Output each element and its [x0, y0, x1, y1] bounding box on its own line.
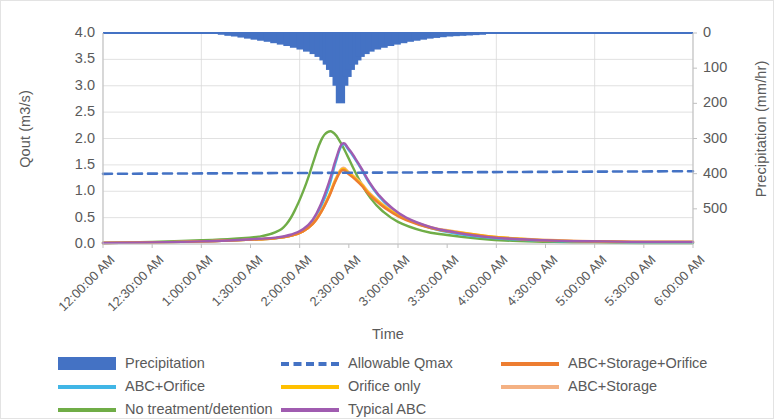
legend-item[interactable]: Allowable Qmax: [281, 353, 453, 374]
y-axis-left-tick-label: 0.0: [55, 235, 95, 251]
precipitation-bar: [477, 33, 486, 35]
legend-item[interactable]: ABC+Storage: [501, 376, 657, 397]
legend-item[interactable]: ABC+Orifice: [58, 376, 205, 397]
y-axis-left-tick-label: 2.0: [55, 130, 95, 146]
y-axis-right-tick-label: 300: [703, 130, 749, 146]
legend-item[interactable]: No treatment/detention: [58, 399, 273, 419]
y-axis-right-tick-label: 0: [703, 24, 749, 40]
legend-label: Precipitation: [125, 356, 205, 371]
legend-swatch-line: [58, 408, 116, 412]
y-axis-left-tick-label: 2.5: [55, 103, 95, 119]
y-axis-left-tick-label: 0.5: [55, 209, 95, 225]
x-axis-title: Time: [1, 326, 774, 342]
legend-swatch-line: [281, 362, 339, 366]
legend-label: Orifice only: [348, 379, 421, 394]
legend-swatch-line: [281, 408, 339, 412]
y-axis-left-title: Qout (m3/s): [17, 9, 33, 249]
legend-swatch-bar: [58, 357, 116, 370]
chart-container: Qout (m3/s) Precipitation (mm/hr) Time 4…: [0, 0, 774, 419]
legend-label: Typical ABC: [348, 402, 426, 417]
y-axis-left-tick-label: 1.0: [55, 182, 95, 198]
legend-item[interactable]: ABC+Storage+Orifice: [501, 353, 707, 374]
chart-legend: PrecipitationAllowable QmaxABC+Storage+O…: [1, 353, 774, 419]
y-axis-right-tick-label: 200: [703, 94, 749, 110]
legend-item[interactable]: Typical ABC: [281, 399, 426, 419]
legend-label: ABC+Storage: [568, 379, 657, 394]
y-axis-left-tick-label: 4.0: [55, 24, 95, 40]
legend-label: No treatment/detention: [125, 402, 273, 417]
y-axis-left-tick-label: 3.0: [55, 77, 95, 93]
legend-swatch-line: [501, 385, 559, 389]
legend-swatch-line: [58, 385, 116, 389]
legend-swatch-line: [501, 362, 559, 366]
y-axis-right-title: Precipitation (mm/hr): [753, 9, 769, 249]
legend-item[interactable]: Precipitation: [58, 353, 205, 374]
y-axis-left-tick-label: 1.5: [55, 156, 95, 172]
y-axis-left-tick-label: 3.5: [55, 50, 95, 66]
y-axis-right-tick-label: 500: [703, 200, 749, 216]
legend-swatch-line: [281, 385, 339, 389]
y-axis-right-tick-label: 100: [703, 59, 749, 75]
y-axis-right-tick-label: 400: [703, 165, 749, 181]
legend-label: ABC+Orifice: [125, 379, 205, 394]
legend-item[interactable]: Orifice only: [281, 376, 421, 397]
legend-label: Allowable Qmax: [348, 356, 453, 371]
legend-label: ABC+Storage+Orifice: [568, 356, 707, 371]
